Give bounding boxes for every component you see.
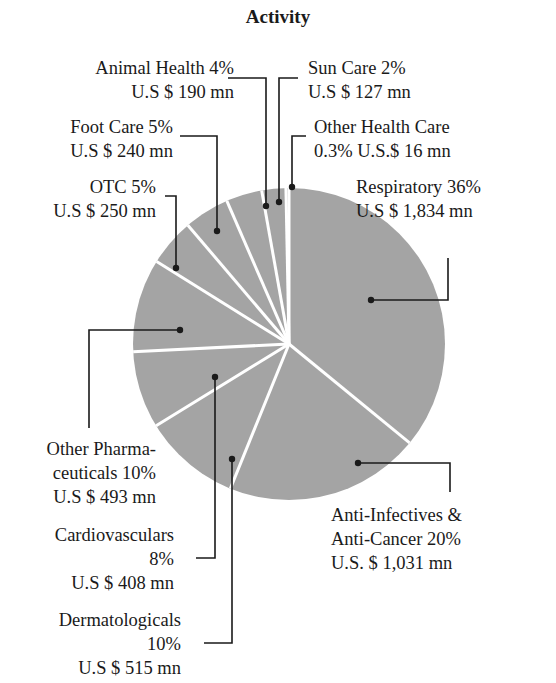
label-foot-care: Foot Care 5% U.S $ 240 mn	[70, 115, 173, 163]
leader-other-health-care	[292, 136, 306, 187]
label-cardiovasculars: Cardiovasculars 8% U.S $ 408 mn	[55, 523, 174, 595]
label-respiratory: Respiratory 36% U.S $ 1,834 mn	[356, 175, 481, 223]
label-animal-health: Animal Health 4% U.S $ 190 mn	[95, 56, 234, 104]
label-sun-care: Sun Care 2% U.S $ 127 mn	[308, 56, 411, 104]
label-dermatologicals: Dermatologicals 10% U.S $ 515 mn	[59, 608, 181, 680]
label-anti-infectives: Anti-Infectives & Anti-Cancer 20% U.S. $…	[331, 503, 462, 575]
label-other-pharmaceuticals: Other Pharma- ceuticals 10% U.S $ 493 mn	[47, 437, 156, 509]
leader-sun-care	[279, 78, 298, 202]
label-other-health-care: Other Health Care 0.3% U.S.$ 16 mn	[314, 115, 451, 163]
label-otc: OTC 5% U.S $ 250 mn	[53, 175, 156, 223]
